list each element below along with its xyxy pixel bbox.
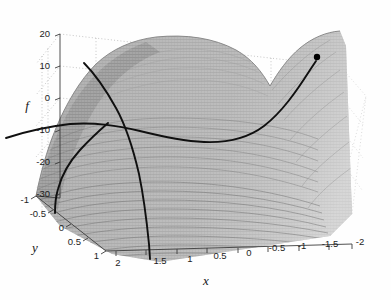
x-tick-label: 1 xyxy=(187,253,192,264)
y-axis-label: y xyxy=(30,240,38,255)
y-tick-label: -1 xyxy=(21,194,29,205)
x-tick-label: 0.5 xyxy=(213,250,226,261)
z-tick-label: -10 xyxy=(36,124,50,135)
x-tick-label: -1 xyxy=(298,240,306,251)
x-tick-label: 0 xyxy=(246,247,251,258)
x-tick-label: -1.5 xyxy=(322,238,338,249)
z-tick-label: 20 xyxy=(39,28,50,39)
z-axis-label: f xyxy=(25,98,31,113)
y-tick-label: 0.5 xyxy=(68,236,81,247)
y-tick-label: 1 xyxy=(94,250,99,261)
surface-plot-figure: 20 10 0 -10 -20 -30 -1 -0.5 0 0.5 1 2 1.… xyxy=(0,0,391,300)
x-axis-label: x xyxy=(202,273,209,288)
z-tick-label: 0 xyxy=(45,92,50,103)
x-tick-label: -2 xyxy=(356,236,364,247)
y-tick-label: -0.5 xyxy=(30,208,46,219)
z-tick-label: -30 xyxy=(36,188,50,199)
x-tick-label: 2 xyxy=(115,257,120,268)
x-tick-label: -0.5 xyxy=(269,242,285,253)
z-tick-label: 10 xyxy=(39,60,50,71)
plot-canvas: 20 10 0 -10 -20 -30 -1 -0.5 0 0.5 1 2 1.… xyxy=(0,0,391,300)
y-tick-label: 0 xyxy=(59,222,64,233)
z-tick-label: -20 xyxy=(36,156,50,167)
x-tick-label: 1.5 xyxy=(153,255,166,266)
endpoint-marker xyxy=(314,54,320,60)
